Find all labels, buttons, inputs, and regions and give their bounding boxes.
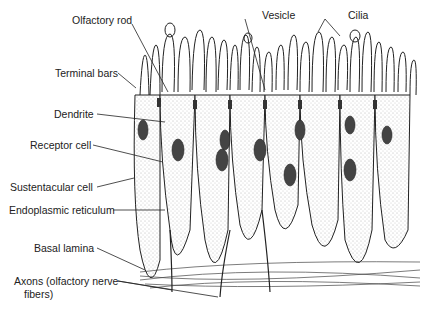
label-olfactory-rod: Olfactory rod [72, 14, 132, 26]
label-dendrite: Dendrite [54, 108, 94, 120]
cilia-band [140, 23, 416, 95]
label-axons-line2: fibers) [24, 288, 53, 300]
label-basal-lamina: Basal lamina [34, 242, 94, 254]
label-endoplasmic-reticulum: Endoplasmic reticulum [9, 204, 115, 216]
cells [134, 95, 410, 278]
label-vesicle: Vesicle [262, 9, 295, 21]
label-axons-line1: Axons (olfactory nerve [14, 275, 118, 287]
label-sustentacular-cell: Sustentacular cell [10, 181, 93, 193]
label-receptor-cell: Receptor cell [30, 139, 91, 151]
label-cilia: Cilia [348, 9, 368, 21]
nerve-fibers [140, 262, 420, 288]
label-terminal-bars: Terminal bars [55, 67, 118, 79]
